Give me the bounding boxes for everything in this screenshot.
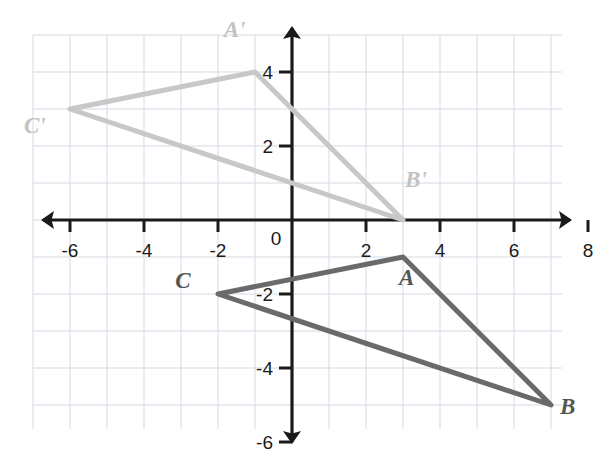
x-tick-label: 4 bbox=[435, 240, 446, 261]
axes bbox=[41, 26, 572, 444]
coordinate-plane-figure: -6-4-20246842-2-4-6 ABCA'B'C' bbox=[0, 0, 607, 468]
triangle-shapes bbox=[70, 72, 551, 405]
origin-label: 0 bbox=[271, 228, 282, 249]
x-tick-label: -2 bbox=[210, 240, 227, 261]
x-tick-label: -6 bbox=[62, 240, 79, 261]
grid-lines bbox=[33, 35, 562, 429]
vertex-label-c: C bbox=[175, 268, 191, 293]
vertex-label-b: B bbox=[559, 394, 575, 419]
x-tick-label: -4 bbox=[136, 240, 153, 261]
y-tick-label: -6 bbox=[256, 432, 273, 453]
vertex-label-c-prime: C' bbox=[24, 113, 46, 138]
vertex-label-a: A bbox=[397, 265, 414, 290]
x-tick-label: 8 bbox=[583, 240, 594, 261]
y-tick-label: 2 bbox=[262, 136, 273, 157]
vertex-label-b-prime: B' bbox=[404, 167, 427, 192]
x-tick-label: 2 bbox=[361, 240, 372, 261]
vertex-label-a-prime: A' bbox=[222, 17, 246, 42]
y-tick-label: -4 bbox=[256, 358, 273, 379]
x-tick-label: 6 bbox=[509, 240, 520, 261]
